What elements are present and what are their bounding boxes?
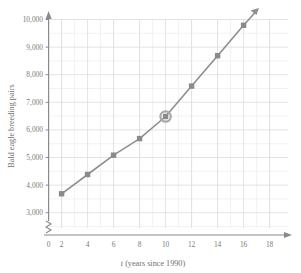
y-axis-tick-label: 3,000 <box>26 208 43 217</box>
x-axis-title: t (years since 1990) <box>121 259 186 268</box>
line-chart-canvas: 10,000 9,000 8,000 7,000 6,000 5,000 4,0… <box>0 0 301 273</box>
x-axis-tick-label: 16 <box>240 240 248 249</box>
x-axis-tick-label: 10 <box>162 240 170 249</box>
y-axis-tick-label: 8,000 <box>26 70 43 79</box>
y-axis-tick-label: 6,000 <box>26 125 43 134</box>
chart-figure: 10,000 9,000 8,000 7,000 6,000 5,000 4,0… <box>0 0 301 273</box>
y-axis-title: Bald eagle breeding pairs <box>7 84 16 167</box>
x-axis-tick-label: 6 <box>112 240 116 249</box>
x-axis-tick-label: 12 <box>188 240 196 249</box>
data-point-marker <box>59 191 64 196</box>
data-point-marker <box>189 83 194 88</box>
y-axis-tick-label: 10,000 <box>23 15 44 24</box>
x-axis-tick-label: 4 <box>86 240 90 249</box>
x-axis-tick-label: 14 <box>214 240 222 249</box>
y-axis-tick-label: 5,000 <box>26 153 43 162</box>
x-axis-tick-label: 0 <box>47 240 51 249</box>
data-point-marker-highlighted <box>163 114 168 119</box>
x-axis-tick-label: 8 <box>138 240 142 249</box>
chart-background <box>0 0 301 273</box>
y-axis-tick-label: 9,000 <box>26 43 43 52</box>
x-axis-tick-label: 18 <box>266 240 274 249</box>
data-point-marker <box>215 53 220 58</box>
y-axis-tick-label: 4,000 <box>26 181 43 190</box>
x-axis-tick-label: 2 <box>60 240 64 249</box>
data-point-marker <box>241 23 246 28</box>
x-axis-title-text: (years since 1990) <box>125 259 185 268</box>
data-point-marker <box>111 153 116 158</box>
y-axis-tick-label: 7,000 <box>26 98 43 107</box>
data-point-marker <box>85 172 90 177</box>
data-point-marker <box>137 136 142 141</box>
